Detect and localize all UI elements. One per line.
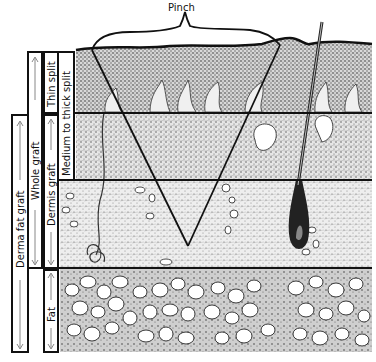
- tissue-layers: [60, 22, 372, 352]
- derma-fat-graft-label: Derma fat graft: [15, 190, 26, 268]
- pinch-label: Pinch: [168, 2, 195, 13]
- whole-graft-label: Whole graft: [30, 142, 41, 200]
- skin-graft-diagram: Pinch Derma fat graft Whole graft Thin s…: [0, 0, 376, 362]
- medium-to-thick-split-label: Medium to thick split: [61, 71, 72, 176]
- fat-label: Fat: [46, 307, 57, 322]
- deep-dermis-layer: [60, 180, 372, 268]
- thin-split-label: Thin split: [46, 61, 57, 108]
- dermis-graft-label: Dermis graft: [46, 163, 57, 226]
